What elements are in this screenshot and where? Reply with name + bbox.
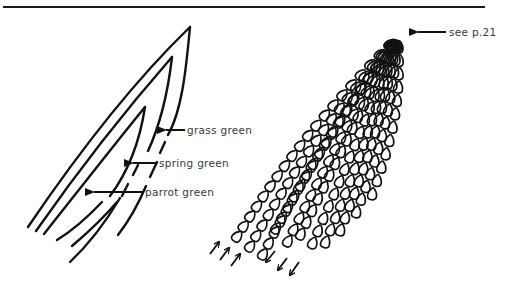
- down-direction-arrows: [266, 251, 299, 275]
- embroidery-illustration: [0, 0, 509, 295]
- label-see-page: see p.21: [449, 26, 497, 38]
- right-leaf-chain-stitches: [230, 36, 404, 261]
- up-direction-arrows: [210, 242, 240, 266]
- label-spring-green: spring green: [159, 157, 229, 169]
- label-parrot-green: parrot green: [145, 186, 214, 198]
- left-leaf-outline: [28, 27, 190, 262]
- label-grass-green: grass green: [187, 124, 252, 136]
